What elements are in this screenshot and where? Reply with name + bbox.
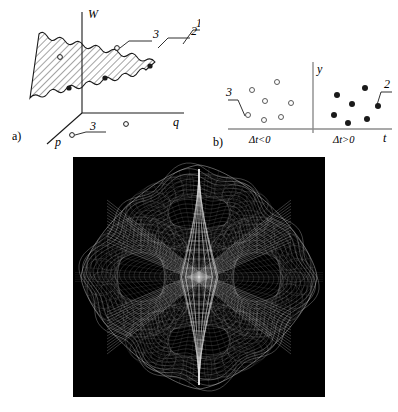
callout-label-3b: 3: [89, 119, 96, 133]
open-circle: [289, 101, 294, 106]
region-label-dt-negative: Δt<0: [248, 134, 271, 145]
callout-label-3: 3: [225, 85, 232, 99]
callout-leader-3: [120, 41, 152, 48]
open-circle: [58, 55, 63, 60]
axis-label-t: t: [383, 131, 387, 145]
axis-label-q: q: [173, 115, 179, 129]
hatched-region: [30, 32, 155, 98]
filled-dot: [362, 85, 368, 91]
panel-b: y t 3 2 Δt<0 Δt>0 b): [200, 0, 398, 155]
panel-label-a: a): [12, 129, 21, 143]
open-circle: [115, 46, 120, 51]
callout-leader-2: [158, 38, 190, 48]
axis-label-p: p: [54, 135, 61, 149]
axis-p: [47, 113, 82, 144]
open-circle: [70, 133, 75, 138]
open-circle: [263, 99, 268, 104]
wireframe-svg: [73, 157, 325, 397]
filled-dot: [334, 92, 340, 98]
panel-c-wireframe-plot: [73, 157, 325, 397]
wireframe-group: [75, 163, 323, 391]
filled-dot: [345, 120, 351, 126]
callout-label-3: 3: [152, 27, 159, 41]
open-circle: [275, 80, 280, 85]
axis-label-y: y: [316, 62, 323, 76]
filled-dot: [349, 101, 355, 107]
figure-root: W q p 3 2 1 3 a): [0, 0, 398, 412]
callout-leader-3: [228, 100, 245, 116]
open-circle: [262, 118, 267, 123]
filled-dot: [364, 116, 370, 122]
filled-dot: [66, 85, 71, 90]
open-circle: [250, 88, 255, 93]
open-circle: [246, 113, 251, 118]
filled-dot: [375, 103, 381, 109]
filled-dot: [147, 63, 152, 68]
callout-label-2: 2: [384, 77, 390, 91]
open-circle: [279, 115, 284, 120]
panel-a: W q p 3 2 1 3 a): [0, 0, 200, 155]
panel-label-b: b): [213, 135, 223, 149]
axis-label-w: W: [88, 7, 99, 21]
filled-dot: [331, 112, 337, 118]
filled-dot: [102, 75, 107, 80]
region-label-dt-positive: Δt>0: [332, 134, 355, 145]
open-circle: [124, 122, 129, 127]
